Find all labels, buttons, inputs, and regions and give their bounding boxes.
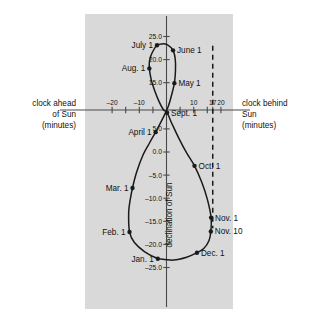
y-axis-label: declination of Sun	[165, 182, 174, 248]
data-point-label: Dec. 1	[201, 249, 225, 258]
x-axis-right-label-line2: Sun	[242, 110, 257, 119]
data-point	[156, 257, 160, 261]
x-tick-label: –20	[107, 99, 118, 106]
x-tick-label: 17	[209, 99, 217, 106]
x-axis-left-label-line3: (minutes)	[42, 121, 76, 130]
x-tick-label: 10	[190, 99, 198, 106]
data-point	[153, 130, 157, 134]
analemma-figure: –20–10101720 25.020.015.05.00.0–5.0–10.0…	[0, 0, 322, 325]
data-point	[195, 251, 199, 255]
data-point	[147, 66, 151, 70]
data-point-label: Mar. 1	[106, 184, 129, 193]
data-point-label: Aug. 1	[122, 64, 146, 73]
data-point	[130, 186, 134, 190]
x-axis-left-label-line1: clock ahead	[32, 99, 76, 108]
y-tick-label: –5.0	[149, 172, 162, 179]
data-point	[155, 43, 159, 47]
y-tick-label: –25.0	[145, 264, 162, 271]
x-axis-right-label-line3: (minutes)	[242, 121, 276, 130]
y-tick-label: 15.0	[149, 79, 162, 86]
data-point-label: Feb. 1	[102, 228, 126, 237]
y-tick-label: –15.0	[145, 218, 162, 225]
data-point-label: May 1	[178, 79, 201, 88]
data-point	[127, 230, 131, 234]
data-point-label: Nov. 10	[215, 227, 243, 236]
y-tick-label: –20.0	[145, 241, 162, 248]
data-point-label: April 1	[128, 128, 152, 137]
data-point-label: June 1	[177, 46, 202, 55]
x-tick-label: –10	[134, 99, 145, 106]
data-point	[192, 164, 196, 168]
x-axis-right-label-line1: clock behind	[242, 99, 288, 108]
x-tick-label: 20	[217, 99, 225, 106]
data-point-label: July 1	[132, 41, 154, 50]
data-point	[209, 229, 213, 233]
data-point	[209, 215, 213, 219]
data-point	[172, 81, 176, 85]
data-point	[165, 111, 169, 115]
x-axis-left-label-line2: of Sun	[52, 110, 76, 119]
data-point-label: Nov. 1	[215, 214, 239, 223]
y-tick-label: 25.0	[149, 33, 162, 40]
y-tick-label: –10.0	[145, 195, 162, 202]
data-point-label: Sept. 1	[171, 109, 197, 118]
y-tick-label: 0.0	[153, 148, 163, 155]
data-point-label: Jan. 1	[131, 255, 154, 264]
data-point	[171, 48, 175, 52]
analemma-svg: –20–10101720 25.020.015.05.00.0–5.0–10.0…	[0, 0, 322, 325]
data-point-label: Oct. 1	[199, 162, 221, 171]
y-tick-label: 20.0	[149, 56, 162, 63]
